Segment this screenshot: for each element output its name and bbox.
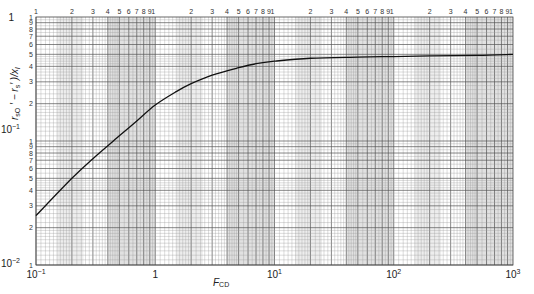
log-log-chart: 1234567891234567891234567891234567891 12… xyxy=(0,0,534,294)
svg-text:8: 8 xyxy=(29,26,33,33)
svg-text:7: 7 xyxy=(29,33,33,40)
svg-text:6: 6 xyxy=(29,41,33,48)
svg-text:1: 1 xyxy=(271,8,275,15)
svg-text:8: 8 xyxy=(142,8,146,15)
left-minor-tick-labels: 1234567891234567891 xyxy=(29,14,33,269)
svg-text:8: 8 xyxy=(261,8,265,15)
svg-text:8: 8 xyxy=(380,8,384,15)
svg-text:2: 2 xyxy=(29,100,33,107)
svg-text:10−2: 10−2 xyxy=(1,257,20,269)
svg-text:6: 6 xyxy=(246,8,250,15)
svg-text:3: 3 xyxy=(449,8,453,15)
svg-text:5: 5 xyxy=(117,8,121,15)
svg-text:6: 6 xyxy=(127,8,131,15)
svg-text:5: 5 xyxy=(475,8,479,15)
svg-text:1: 1 xyxy=(29,262,33,269)
svg-text:2: 2 xyxy=(428,8,432,15)
svg-text:7: 7 xyxy=(29,157,33,164)
svg-text:2: 2 xyxy=(70,8,74,15)
svg-text:6: 6 xyxy=(485,8,489,15)
svg-text:1: 1 xyxy=(152,269,158,280)
svg-text:4: 4 xyxy=(29,187,33,194)
y-axis-title: rsO ′ − rs′ )/xl xyxy=(9,67,21,120)
svg-text:6: 6 xyxy=(365,8,369,15)
svg-text:8: 8 xyxy=(499,8,503,15)
svg-text:4: 4 xyxy=(344,8,348,15)
svg-text:5: 5 xyxy=(29,51,33,58)
top-minor-tick-labels: 1234567891234567891234567891234567891 xyxy=(34,8,513,15)
svg-text:7: 7 xyxy=(493,8,497,15)
svg-text:1: 1 xyxy=(8,12,14,23)
svg-text:7: 7 xyxy=(254,8,258,15)
svg-text:5: 5 xyxy=(356,8,360,15)
svg-text:4: 4 xyxy=(464,8,468,15)
svg-text:rsO ′ − rs′ )/xl: rsO ′ − rs′ )/xl xyxy=(9,67,21,120)
svg-text:7: 7 xyxy=(135,8,139,15)
svg-text:3: 3 xyxy=(29,202,33,209)
svg-text:4: 4 xyxy=(29,63,33,70)
svg-text:4: 4 xyxy=(106,8,110,15)
svg-text:2: 2 xyxy=(29,224,33,231)
svg-text:8: 8 xyxy=(29,150,33,157)
x-axis-title: FCD xyxy=(213,277,229,288)
y-major-tick-labels: 10−210−11 xyxy=(1,12,20,269)
svg-text:3: 3 xyxy=(329,8,333,15)
svg-text:7: 7 xyxy=(373,8,377,15)
svg-text:1: 1 xyxy=(390,8,394,15)
svg-text:103: 103 xyxy=(505,268,520,280)
svg-text:10−1: 10−1 xyxy=(1,123,20,135)
svg-text:3: 3 xyxy=(29,78,33,85)
grid-lines xyxy=(36,17,513,265)
svg-text:1: 1 xyxy=(29,138,33,145)
svg-text:1: 1 xyxy=(509,8,513,15)
svg-text:3: 3 xyxy=(210,8,214,15)
svg-text:6: 6 xyxy=(29,165,33,172)
x-major-tick-labels: 10−11101102103 xyxy=(26,268,520,280)
svg-text:4: 4 xyxy=(225,8,229,15)
svg-text:1: 1 xyxy=(29,14,33,21)
svg-text:2: 2 xyxy=(308,8,312,15)
svg-text:3: 3 xyxy=(91,8,95,15)
svg-text:5: 5 xyxy=(237,8,241,15)
svg-text:1: 1 xyxy=(151,8,155,15)
svg-text:102: 102 xyxy=(386,268,401,280)
svg-text:1: 1 xyxy=(34,8,38,15)
svg-text:2: 2 xyxy=(189,8,193,15)
svg-text:101: 101 xyxy=(267,268,282,280)
svg-text:5: 5 xyxy=(29,175,33,182)
svg-text:10−1: 10−1 xyxy=(26,268,45,280)
